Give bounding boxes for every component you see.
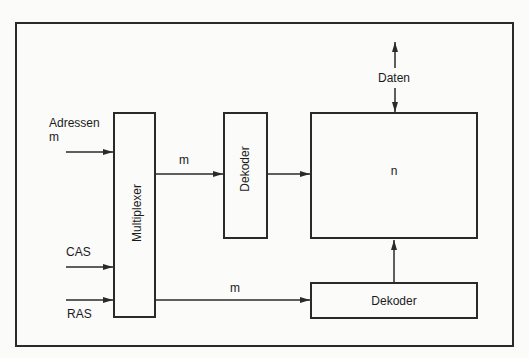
ras-label: RAS [67,307,92,321]
addresses-width-label: m [49,130,59,144]
mux-to-row-decoder-width-label: m [230,281,240,295]
row-decoder-block: Dekoder [310,282,478,319]
memory-array-label: n [312,164,476,178]
multiplexer-label: Multiplexer [130,173,144,253]
column-decoder-label: Dekoder [238,139,252,199]
row-decoder-label: Dekoder [312,294,476,308]
mux-to-decoder-width-label: m [179,153,189,167]
multiplexer-block: Multiplexer [113,112,156,318]
data-label: Daten [378,71,410,85]
cas-label: CAS [66,245,91,259]
addresses-label: Adressen [49,116,100,130]
memory-array-block: n [310,112,478,239]
column-decoder-block: Dekoder [223,112,268,239]
